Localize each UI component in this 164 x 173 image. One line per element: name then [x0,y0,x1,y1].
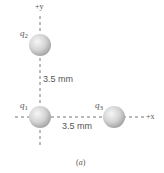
charge-q1-label: q1 [20,101,28,112]
charge-q3-label: q3 [95,101,103,112]
charge-q2-sphere [29,34,51,56]
charge-q2-label: q2 [20,29,28,40]
charge-q2-index: 2 [25,32,29,40]
charge-q1-index: 1 [25,104,29,112]
y-axis-label: +y [35,3,44,11]
charge-q1-sphere [29,106,51,128]
charge-q3-index: 3 [100,104,104,112]
charge-diagram [0,0,164,173]
caption-close-paren: ) [83,158,86,167]
charge-q3-sphere [103,106,125,128]
distance-q1-q3-label: 3.5 mm [62,122,92,131]
distance-q1-q2-label: 3.5 mm [43,75,73,84]
figure-caption: (a) [76,159,85,167]
x-axis-label: +x [146,113,155,121]
